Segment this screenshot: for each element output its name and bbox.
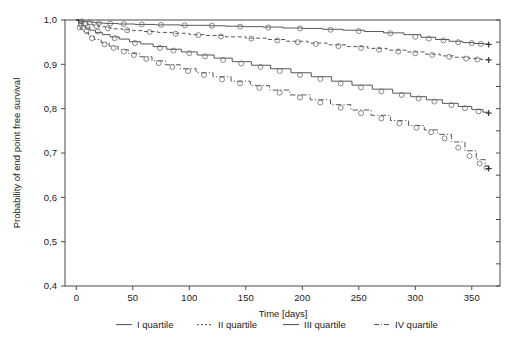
plot-frame bbox=[65, 20, 500, 286]
y-tick-label: 1,0 bbox=[44, 14, 57, 25]
x-tick-label: 50 bbox=[128, 292, 139, 303]
censor-marker bbox=[220, 77, 225, 82]
censor-marker bbox=[441, 38, 446, 43]
censor-marker bbox=[298, 26, 303, 31]
censor-marker bbox=[105, 26, 110, 31]
x-tick-label: 350 bbox=[464, 292, 480, 303]
x-tick-label: 250 bbox=[351, 292, 367, 303]
y-tick-label: 0,5 bbox=[44, 236, 57, 247]
censor-marker bbox=[379, 116, 384, 121]
censor-marker bbox=[295, 40, 300, 45]
censor-marker bbox=[442, 136, 447, 141]
censor-marker bbox=[456, 145, 461, 150]
y-tick-label: 0,9 bbox=[44, 59, 57, 70]
censor-marker bbox=[313, 41, 318, 46]
censor-marker bbox=[447, 54, 452, 59]
censor-marker bbox=[388, 31, 393, 36]
censor-marker bbox=[318, 100, 323, 105]
legend-label-4: IV quartile bbox=[395, 319, 438, 330]
censor-marker bbox=[121, 49, 126, 54]
censor-marker bbox=[170, 64, 175, 69]
censor-marker bbox=[238, 24, 243, 29]
chart-legend: I quartileII quartileIII quartileIV quar… bbox=[116, 319, 438, 330]
censor-marker bbox=[275, 38, 280, 43]
censor-marker bbox=[397, 121, 402, 126]
censor-marker bbox=[238, 81, 243, 86]
censor-marker bbox=[102, 42, 107, 47]
legend-label-2: II quartile bbox=[218, 319, 257, 330]
censor-marker bbox=[90, 36, 95, 41]
censor-marker bbox=[359, 111, 364, 116]
censor-marker bbox=[430, 53, 435, 58]
censor-marker bbox=[413, 34, 418, 39]
plot-border bbox=[65, 20, 500, 286]
censor-marker bbox=[257, 85, 262, 90]
censor-marker bbox=[277, 90, 282, 95]
x-axis-label: Time [days] bbox=[259, 308, 308, 319]
kaplan-meier-chart: 050100150200250300350 0,40,50,60,70,80,9… bbox=[0, 0, 516, 351]
x-tick-label: 0 bbox=[74, 292, 79, 303]
censor-marker bbox=[298, 95, 303, 100]
censor-marker bbox=[478, 41, 483, 46]
legend-label-3: III quartile bbox=[304, 319, 346, 330]
survival-curves bbox=[76, 20, 488, 169]
censor-marker bbox=[475, 57, 480, 62]
survival-curve-4 bbox=[76, 20, 488, 169]
censor-marker bbox=[196, 33, 201, 38]
censor-marker bbox=[429, 130, 434, 135]
censor-marker bbox=[338, 105, 343, 110]
censor-marker bbox=[414, 125, 419, 130]
censor-marker bbox=[456, 40, 461, 45]
y-axis-ticks: 0,40,50,60,70,80,91,0 bbox=[44, 14, 500, 291]
censor-marker bbox=[266, 25, 271, 30]
survival-curve-3 bbox=[76, 20, 488, 113]
censor-marker bbox=[318, 76, 323, 81]
censor-marker bbox=[359, 85, 364, 90]
x-tick-label: 150 bbox=[238, 292, 254, 303]
censor-marker bbox=[201, 72, 206, 77]
survival-chart-figure: 050100150200250300350 0,40,50,60,70,80,9… bbox=[0, 0, 516, 351]
x-tick-label: 200 bbox=[294, 292, 310, 303]
censor-marker bbox=[95, 29, 100, 34]
y-tick-label: 0,4 bbox=[44, 280, 57, 291]
censor-marker bbox=[156, 61, 161, 66]
x-axis-ticks: 050100150200250300350 bbox=[74, 286, 480, 303]
censor-marker bbox=[469, 41, 474, 46]
censor-marker bbox=[298, 72, 303, 77]
censor-marker bbox=[467, 154, 472, 159]
censor-marker bbox=[186, 68, 191, 73]
censor-marker bbox=[144, 57, 149, 62]
y-tick-label: 0,6 bbox=[44, 192, 57, 203]
censor-marker bbox=[147, 29, 152, 34]
censor-marker bbox=[173, 31, 178, 36]
censor-marker bbox=[125, 28, 130, 33]
censor-marker bbox=[328, 27, 333, 32]
y-tick-label: 0,7 bbox=[44, 147, 57, 158]
censor-marker bbox=[464, 56, 469, 61]
legend-label-1: I quartile bbox=[137, 319, 173, 330]
censor-marker bbox=[477, 161, 482, 166]
censor-marker bbox=[356, 29, 361, 34]
endpoint-markers bbox=[486, 41, 492, 171]
y-axis-label: Probability of end point free survival bbox=[11, 78, 22, 229]
y-tick-label: 0,8 bbox=[44, 103, 57, 114]
censor-marker bbox=[218, 34, 223, 39]
censor-marker bbox=[277, 68, 282, 73]
censor-marker bbox=[338, 81, 343, 86]
x-tick-label: 300 bbox=[407, 292, 423, 303]
censor-marker bbox=[379, 89, 384, 94]
censor-marker bbox=[249, 36, 254, 41]
x-tick-label: 100 bbox=[181, 292, 197, 303]
